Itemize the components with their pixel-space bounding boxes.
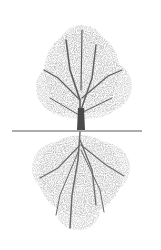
trunk xyxy=(77,108,85,130)
root-system xyxy=(32,135,130,230)
tree-svg xyxy=(0,0,161,250)
tree-illustration xyxy=(0,0,161,250)
